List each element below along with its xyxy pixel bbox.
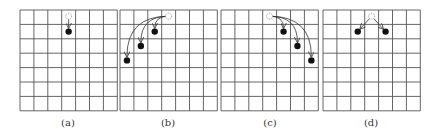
- grid: [323, 10, 420, 111]
- panel-c: [221, 10, 318, 111]
- target-position-dot: [152, 28, 158, 34]
- panel-b: [120, 10, 217, 111]
- panel-a: [20, 10, 117, 111]
- panel-d: [323, 10, 420, 111]
- panel-label-a: (a): [38, 117, 98, 128]
- target-position-dot: [280, 28, 286, 34]
- source-position-dashed-circle: [369, 13, 375, 19]
- source-position-dashed-circle: [166, 13, 172, 19]
- source-position-dashed-circle: [267, 13, 273, 19]
- target-position-dot: [355, 28, 361, 34]
- target-position-dot: [124, 57, 130, 63]
- target-position-dot: [294, 43, 300, 49]
- panel-label-d: (d): [341, 117, 401, 128]
- panel-label-b: (b): [138, 117, 198, 128]
- panel-label-c: (c): [240, 117, 300, 128]
- target-position-dot: [382, 28, 388, 34]
- grid: [120, 10, 217, 111]
- target-position-dot: [308, 57, 314, 63]
- grid: [221, 10, 318, 111]
- source-position-dashed-circle: [66, 13, 72, 19]
- target-position-dot: [138, 43, 144, 49]
- target-position-dot: [65, 28, 71, 34]
